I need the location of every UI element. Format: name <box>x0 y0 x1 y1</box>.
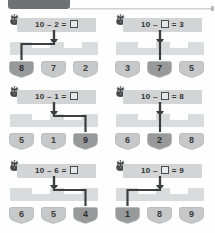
answer-tile-6-1[interactable]: 1 <box>114 206 141 224</box>
answer-tile-label-4-1: 6 <box>114 132 141 150</box>
answer-tile-2-2[interactable]: 7 <box>146 60 173 78</box>
answer-tile-label-2-1: 3 <box>114 60 141 78</box>
answer-tile-label-5-3: 4 <box>72 206 99 224</box>
answer-tile-label-5-1: 6 <box>8 206 35 224</box>
answer-tile-6-2[interactable]: 8 <box>146 206 173 224</box>
answer-tile-6-3[interactable]: 9 <box>178 206 205 224</box>
worksheet-page: 10 – 2 = 8 7 2 <box>0 0 215 233</box>
answer-tile-2-3[interactable]: 5 <box>178 60 205 78</box>
answer-tile-5-2[interactable]: 5 <box>40 206 67 224</box>
answer-tile-4-2[interactable]: 2 <box>146 132 173 150</box>
answer-tile-label-5-2: 5 <box>40 206 67 224</box>
problem-cell-2: 10 – = 3 3 7 5 <box>110 12 210 82</box>
problem-cell-4: 10 – = 8 6 2 8 <box>110 84 210 154</box>
answer-tile-label-1-2: 7 <box>40 60 67 78</box>
answer-tile-3-2[interactable]: 1 <box>40 132 67 150</box>
answer-tile-label-1-1: 8 <box>8 60 35 78</box>
equation-blank-box <box>70 166 78 174</box>
answer-tile-label-3-2: 1 <box>40 132 67 150</box>
answer-tile-1-3[interactable]: 2 <box>72 60 99 78</box>
answer-tile-label-3-1: 5 <box>8 132 35 150</box>
answer-tile-5-3[interactable]: 4 <box>72 206 99 224</box>
answer-tile-label-6-2: 8 <box>146 206 173 224</box>
equation-blank-box <box>70 20 78 28</box>
answer-tile-label-6-3: 9 <box>178 206 205 224</box>
top-badge <box>8 0 70 9</box>
answer-tile-label-4-2: 2 <box>146 132 173 150</box>
problem-cell-1: 10 – 2 = 8 7 2 <box>4 12 104 82</box>
equation-blank-box <box>161 166 169 174</box>
answer-tile-label-2-3: 5 <box>178 60 205 78</box>
answer-tile-label-6-1: 1 <box>114 206 141 224</box>
answer-tile-3-1[interactable]: 5 <box>8 132 35 150</box>
equation-blank-box <box>161 20 169 28</box>
header-divider <box>70 8 212 10</box>
answer-tile-2-1[interactable]: 3 <box>114 60 141 78</box>
problem-grid: 10 – 2 = 8 7 2 <box>0 12 215 233</box>
top-badge-label <box>8 0 70 9</box>
answer-tile-5-1[interactable]: 6 <box>8 206 35 224</box>
answer-tile-3-3[interactable]: 9 <box>72 132 99 150</box>
problem-cell-6: 10 – = 9 1 8 9 <box>110 158 210 228</box>
top-bar <box>0 0 215 12</box>
answer-tile-label-2-2: 7 <box>146 60 173 78</box>
answer-tile-label-1-3: 2 <box>72 60 99 78</box>
header-divider-endcap <box>211 6 214 11</box>
answer-tile-label-4-3: 8 <box>178 132 205 150</box>
answer-tile-4-1[interactable]: 6 <box>114 132 141 150</box>
equation-blank-box <box>161 92 169 100</box>
answer-tile-4-3[interactable]: 8 <box>178 132 205 150</box>
answer-tile-1-1[interactable]: 8 <box>8 60 35 78</box>
answer-tile-1-2[interactable]: 7 <box>40 60 67 78</box>
problem-cell-3: 10 – 1 = 5 1 9 <box>4 84 104 154</box>
answer-tile-label-3-3: 9 <box>72 132 99 150</box>
equation-blank-box <box>70 92 78 100</box>
problem-cell-5: 10 – 6 = 6 5 4 <box>4 158 104 228</box>
